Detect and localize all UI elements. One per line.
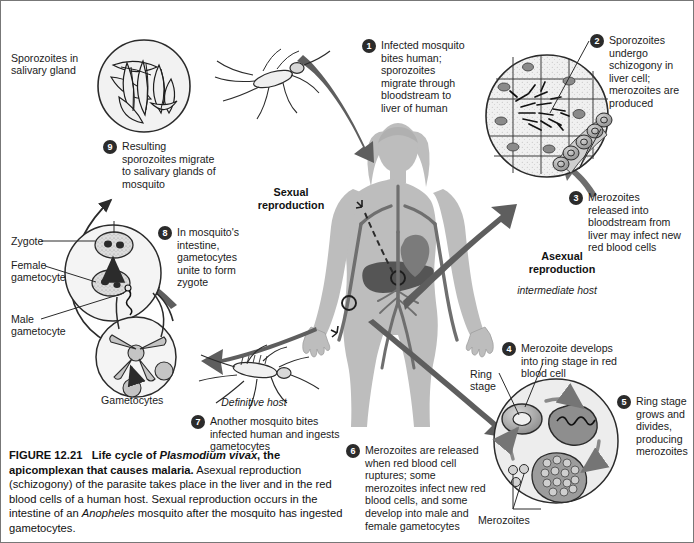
- step-8: 8 In mosquito's intestine, gametocytes u…: [158, 226, 250, 289]
- label-zygote: Zygote: [11, 235, 43, 247]
- figure-caption: FIGURE 12.21 Life cycle of Plasmodium vi…: [9, 448, 349, 536]
- step-9-text: Resulting sporozoites migrate to salivar…: [122, 140, 221, 190]
- step-1-text: Infected mosquito bites human; sporozoit…: [381, 39, 472, 115]
- step-8-number: 8: [158, 226, 172, 240]
- label-merozoites: Merozoites: [478, 514, 530, 526]
- label-female-gametocyte: Female gametocyte: [11, 259, 66, 284]
- label-sporozoites-salivary-gland: Sporozoites in salivary gland: [11, 52, 78, 77]
- step-2-text: Sporozoites undergo schizogony in liver …: [609, 34, 692, 110]
- mosquito-top-graphic: [215, 49, 330, 119]
- step-1-number: 1: [362, 39, 376, 53]
- label-intermediate-host: intermediate host: [498, 285, 616, 296]
- step-5-number: 5: [617, 395, 631, 409]
- figure-number: FIGURE 12.21: [9, 449, 82, 461]
- step-5-text: Ring stage grows and divides, producing …: [636, 395, 694, 458]
- step-1: 1 Infected mosquito bites human; sporozo…: [362, 39, 472, 115]
- step-9: 9 Resulting sporozoites migrate to saliv…: [103, 140, 221, 190]
- step-3-text: Merozoites released into bloodstream fro…: [588, 191, 683, 254]
- step-5: 5 Ring stage grows and divides, producin…: [617, 395, 694, 458]
- label-definitive-host: Definitive host: [199, 397, 309, 408]
- label-sexual-reproduction: Sexual reproduction: [239, 186, 343, 211]
- step-9-number: 9: [103, 140, 117, 154]
- gametocytes-circle: [96, 293, 176, 397]
- red-blood-cell-circle: [494, 363, 618, 509]
- step-6: 6 Merozoites are released when red blood…: [346, 444, 486, 532]
- step-4-text: Merozoite develops into ring stage in re…: [521, 342, 618, 380]
- figure-container: 1 Infected mosquito bites human; sporozo…: [0, 0, 694, 543]
- step-2-number: 2: [590, 34, 604, 48]
- salivary-gland-circle: [98, 40, 190, 132]
- label-asexual-reproduction: Asexual reproduction: [510, 250, 614, 275]
- label-ring-stage: Ring stage: [470, 368, 496, 393]
- label-gametocytes: Gametocytes: [101, 394, 163, 406]
- step-7-number: 7: [191, 415, 205, 429]
- caption-title-species: Plasmodium vivax: [159, 449, 257, 461]
- step-6-text: Merozoites are released when red blood c…: [365, 444, 486, 532]
- step-3: 3 Merozoites released into bloodstream f…: [569, 191, 683, 254]
- label-male-gametocyte: Male gametocyte: [11, 313, 66, 338]
- step-2: 2 Sporozoites undergo schizogony in live…: [590, 34, 692, 110]
- step-8-text: In mosquito's intestine, gametocytes uni…: [177, 226, 250, 289]
- step-3-number: 3: [569, 191, 583, 205]
- caption-body-species: Anopheles: [82, 507, 135, 519]
- step-4: 4 Merozoite develops into ring stage in …: [502, 342, 618, 380]
- step-4-number: 4: [502, 342, 516, 356]
- human-figure-graphic: [303, 123, 494, 427]
- caption-title-part1: Life cycle of: [92, 449, 160, 461]
